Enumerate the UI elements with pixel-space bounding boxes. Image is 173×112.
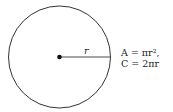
circumference-formula: C = 2πr [121,58,159,69]
radius-label: r [84,45,89,56]
center-point [57,55,62,60]
area-formula: A = πr², [121,47,159,58]
